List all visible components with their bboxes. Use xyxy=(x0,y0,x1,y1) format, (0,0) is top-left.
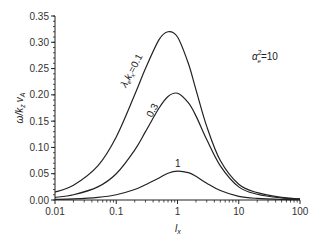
y-tick-label: 0.10 xyxy=(30,142,50,153)
y-tick-label: 0.15 xyxy=(30,116,50,127)
y-tick-label: 0.00 xyxy=(30,195,50,206)
y-tick-label: 0.20 xyxy=(30,89,50,100)
curve-label-1: 1 xyxy=(175,158,181,169)
y-tick-label: 0.35 xyxy=(30,11,50,22)
curve-label-0.1: λekx=0.1 xyxy=(118,52,146,91)
y-tick-label: 0.05 xyxy=(30,168,50,179)
x-tick-label: 0.01 xyxy=(45,206,65,217)
y-tick-label: 0.25 xyxy=(30,63,50,74)
curve-label-0.3: 0.3 xyxy=(144,101,160,119)
x-axis-label: lx xyxy=(175,223,181,235)
x-tick-label: 0.1 xyxy=(109,206,123,217)
y-tick-label: 0.30 xyxy=(30,37,50,48)
line-chart: 0.000.050.100.150.200.250.300.350.010.11… xyxy=(0,0,322,245)
alpha-annotation: α2e=10 xyxy=(252,49,278,64)
x-tick-label: 10 xyxy=(233,206,245,217)
x-tick-label: 1 xyxy=(175,206,181,217)
y-axis-label: ω/kzvA xyxy=(14,92,26,123)
series-line-1 xyxy=(55,93,300,199)
x-tick-label: 100 xyxy=(292,206,309,217)
